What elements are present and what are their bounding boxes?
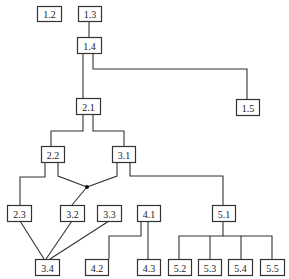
node-5-5: 5.5 <box>261 260 285 276</box>
node-5-3: 5.3 <box>199 260 222 276</box>
node-5-2: 5.2 <box>169 260 192 276</box>
edge-junction-to-3.2 <box>72 187 87 205</box>
edge-2.2-to-2.3 <box>20 162 45 205</box>
edge-3.1-to-5.1 <box>130 162 223 205</box>
node-label: 1.5 <box>242 103 255 114</box>
edge-3.1-to-junction <box>87 162 117 187</box>
node-label: 5.4 <box>234 263 247 274</box>
node-2-1: 2.1 <box>77 99 101 115</box>
hierarchy-diagram: 1.21.31.41.52.12.23.12.33.23.34.15.13.44… <box>0 0 289 279</box>
node-3-2: 3.2 <box>61 206 85 222</box>
edge-2.3-to-3.4 <box>20 221 44 259</box>
edge-2.2-to-junction <box>58 162 87 187</box>
node-label: 1.4 <box>83 41 96 52</box>
edge-2.1-to-2.2 <box>51 114 83 146</box>
node-label: 5.2 <box>174 263 187 274</box>
node-label: 5.5 <box>266 263 279 274</box>
edge-4.1-to-4.2 <box>109 221 141 259</box>
node-4-3: 4.3 <box>138 260 161 276</box>
node-label: 5.1 <box>218 209 231 220</box>
node-3-1: 3.1 <box>113 147 136 163</box>
edge-5.1-to-5.4 <box>223 236 241 259</box>
node-label: 3.3 <box>103 209 116 220</box>
node-1-5: 1.5 <box>237 100 260 116</box>
node-5-1: 5.1 <box>213 206 236 222</box>
node-label: 4.1 <box>143 209 156 220</box>
node-label: 2.3 <box>13 209 26 220</box>
edges-layer <box>20 21 272 259</box>
node-3-4: 3.4 <box>36 260 60 276</box>
node-4-2: 4.2 <box>86 260 109 276</box>
node-1-3: 1.3 <box>79 7 102 22</box>
edge-2.1-to-3.1 <box>93 114 124 146</box>
node-label: 3.4 <box>41 263 54 274</box>
node-2-2: 2.2 <box>42 147 65 163</box>
junction-dot <box>85 185 89 189</box>
node-label: 2.1 <box>82 102 95 113</box>
node-label: 3.2 <box>66 209 79 220</box>
node-1-2: 1.2 <box>38 7 62 22</box>
node-label: 2.2 <box>47 150 60 161</box>
node-2-3: 2.3 <box>8 206 32 222</box>
node-label: 3.1 <box>118 150 131 161</box>
node-label: 4.2 <box>91 263 104 274</box>
edge-5.1-to-5.5 <box>241 236 272 259</box>
node-label: 1.3 <box>84 9 97 20</box>
node-4-1: 4.1 <box>138 206 161 222</box>
node-label: 1.2 <box>43 9 56 20</box>
edge-5.1-to-5.2 <box>179 221 223 259</box>
node-label: 4.3 <box>143 263 156 274</box>
node-1-4: 1.4 <box>78 38 102 54</box>
node-5-4: 5.4 <box>229 260 253 276</box>
node-3-3: 3.3 <box>98 206 122 222</box>
node-label: 5.3 <box>204 263 217 274</box>
nodes-layer: 1.21.31.41.52.12.23.12.33.23.34.15.13.44… <box>8 7 285 276</box>
edge-1.4-to-1.5 <box>93 53 247 99</box>
